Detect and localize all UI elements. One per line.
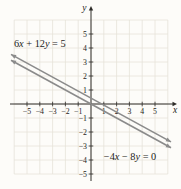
graph-figure: −5−4−3−2−11234554321−1−2−3−4−5 xy 6x + 1…	[0, 0, 181, 189]
y-tick-label: −3	[79, 142, 87, 151]
x-tick-label: −4	[36, 107, 44, 116]
x-tick-label: −3	[48, 107, 56, 116]
x-tick-label: −2	[61, 107, 69, 116]
equation-label-1: −4x − 8y = 0	[104, 151, 156, 162]
y-axis-arrowhead	[89, 6, 93, 11]
y-tick-label: −5	[79, 170, 87, 179]
y-tick-label: 3	[83, 58, 87, 67]
y-tick-label: −2	[79, 128, 87, 137]
y-tick-label: 2	[83, 72, 87, 81]
x-axis-label: x	[172, 105, 178, 115]
x-tick-label: −5	[23, 107, 31, 116]
x-tick-label: 3	[127, 107, 131, 116]
y-axis-label: y	[81, 3, 87, 13]
x-tick-label: 5	[153, 107, 157, 116]
y-tick-label: −4	[79, 156, 87, 165]
y-tick-label: −1	[79, 114, 87, 123]
y-tick-label: 5	[83, 30, 87, 39]
coordinate-plane: −5−4−3−2−11234554321−1−2−3−4−5 xy 6x + 1…	[0, 0, 181, 189]
y-tick-label: 4	[83, 44, 87, 53]
x-tick-label: 4	[140, 107, 144, 116]
equation-label-0: 6x + 12y = 5	[14, 38, 66, 49]
